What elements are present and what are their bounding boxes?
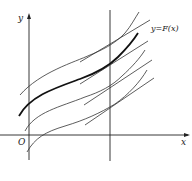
- tangent-line-4: [85, 78, 154, 125]
- x-axis-label: x: [181, 138, 186, 147]
- y-axis-arrow-icon: [27, 13, 31, 19]
- tangent-line-3: [84, 60, 152, 105]
- curve-4: [27, 70, 147, 152]
- curve-F: [19, 33, 138, 116]
- curve-label: y=F(x): [151, 25, 179, 33]
- tangent-line-1: [80, 20, 150, 62]
- tangent-line-2: [80, 41, 148, 84]
- origin-label: O: [18, 138, 25, 147]
- y-axis-label: y: [18, 14, 23, 23]
- diagram-canvas: y x O y=F(x): [0, 0, 192, 181]
